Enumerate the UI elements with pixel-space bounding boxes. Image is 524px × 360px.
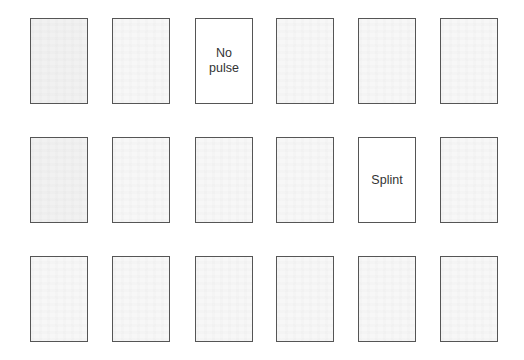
card-face-down[interactable] [30, 256, 88, 342]
card-face-down[interactable] [440, 18, 498, 104]
card-face-down[interactable] [276, 256, 334, 342]
card-label: No pulse [209, 46, 239, 76]
card-face-down[interactable] [30, 18, 88, 104]
card-face-down[interactable] [30, 137, 88, 223]
card-face-up[interactable]: No pulse [195, 18, 253, 104]
card-face-down[interactable] [276, 137, 334, 223]
card-face-down[interactable] [440, 256, 498, 342]
card-face-down[interactable] [276, 18, 334, 104]
card-face-down[interactable] [112, 137, 170, 223]
card-face-down[interactable] [195, 256, 253, 342]
card-face-down[interactable] [195, 137, 253, 223]
card-face-down[interactable] [358, 256, 416, 342]
card-face-down[interactable] [358, 18, 416, 104]
card-label: Splint [371, 173, 402, 188]
card-face-down[interactable] [112, 18, 170, 104]
card-face-down[interactable] [112, 256, 170, 342]
card-face-up[interactable]: Splint [358, 137, 416, 223]
card-face-down[interactable] [440, 137, 498, 223]
